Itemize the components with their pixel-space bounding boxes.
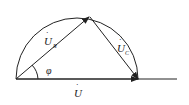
svg-text:C: C bbox=[125, 50, 130, 56]
label-u-r: U R · bbox=[44, 27, 57, 49]
svg-text:R: R bbox=[52, 43, 57, 49]
phasor-diagram: U R · U C · U · φ bbox=[0, 0, 189, 105]
svg-text:·: · bbox=[76, 79, 78, 89]
label-phi: φ bbox=[46, 65, 52, 76]
vector-u-c bbox=[90, 17, 138, 79]
svg-text:·: · bbox=[119, 34, 121, 44]
angle-arc-phi bbox=[32, 65, 38, 79]
svg-text:·: · bbox=[46, 27, 48, 37]
label-u: U · bbox=[74, 79, 83, 99]
